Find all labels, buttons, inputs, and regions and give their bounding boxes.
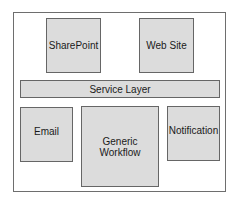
service-layer-label: Service Layer [89, 84, 150, 95]
web-site-label: Web Site [146, 40, 186, 51]
notification-box: Notification [167, 106, 220, 161]
email-label: Email [34, 126, 59, 137]
web-site-box: Web Site [139, 18, 194, 73]
sharepoint-box: SharePoint [46, 18, 101, 73]
notification-label: Notification [169, 125, 218, 136]
generic-workflow-label: Generic Workflow [82, 136, 158, 158]
generic-workflow-box: Generic Workflow [81, 106, 159, 187]
email-box: Email [20, 107, 73, 162]
service-layer-box: Service Layer [20, 80, 220, 98]
sharepoint-label: SharePoint [49, 40, 98, 51]
